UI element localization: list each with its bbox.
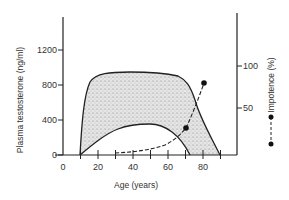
x-tick-20: 20 — [93, 162, 103, 172]
y-tick-400: 400 — [42, 115, 57, 125]
x-tick-0: 0 — [60, 162, 65, 172]
x-axis-label: Age (years) — [114, 180, 158, 190]
right-ticks: 100 50 — [237, 61, 258, 113]
impotence-marker-80 — [201, 80, 207, 86]
y-tick-1200: 1200 — [37, 45, 57, 55]
left-ticks: 1200 800 400 0 — [37, 45, 63, 160]
chart-svg: 1200 800 400 0 0 20 40 60 80 100 50 Age … — [0, 0, 289, 200]
y2-tick-50: 50 — [243, 103, 253, 113]
impotence-legend-symbol — [269, 115, 274, 147]
y-tick-800: 800 — [42, 80, 57, 90]
y-axis-label: Plasma testosterone (ng/ml) — [15, 47, 25, 153]
impotence-marker-70 — [183, 125, 189, 131]
testosterone-range-area — [80, 72, 220, 155]
y-tick-0: 0 — [52, 150, 57, 160]
x-tick-60: 60 — [163, 162, 173, 172]
y2-axis-label: Impotence (%) — [266, 57, 276, 112]
y2-tick-100: 100 — [243, 61, 258, 71]
x-tick-80: 80 — [198, 162, 208, 172]
x-tick-40: 40 — [128, 162, 138, 172]
